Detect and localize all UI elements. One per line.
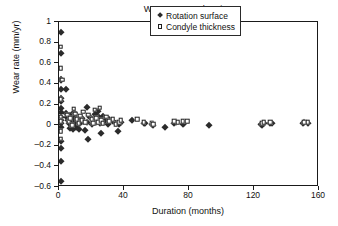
data-point [59,178,64,184]
y-tick-label: 0.4 [0,78,51,87]
data-point [59,66,63,71]
data-point [59,145,64,151]
data-point [141,120,146,125]
data-point [118,118,123,123]
x-tick-label: 160 [311,191,325,200]
legend-item-label: Condyle thickness [165,22,235,32]
data-point [305,120,310,125]
x-tick-mark [123,186,124,190]
y-tick-label: 0.2 [0,99,51,108]
data-point [59,97,63,102]
chart-legend: Rotation surfaceCondyle thickness [150,6,241,36]
y-tick-label: 0 [0,120,51,129]
data-point [268,120,273,125]
data-points-layer [59,22,317,185]
data-point [59,29,64,35]
x-tick-mark [318,186,319,190]
x-tick-mark [253,186,254,190]
data-point [185,119,190,124]
y-tick-label: 0.8 [0,37,51,46]
data-point [261,120,266,125]
data-point [85,135,91,141]
square-icon [155,24,165,28]
data-point [135,117,140,122]
data-point [110,117,115,122]
legend-item-label: Rotation surface [165,11,228,21]
data-point [59,136,63,141]
data-point [60,77,65,82]
y-tick-label: –0.2 [0,140,51,149]
legend-item: Condyle thickness [155,21,235,32]
data-point [71,106,76,111]
x-tick-label: 40 [118,191,127,200]
data-point [70,123,75,128]
data-point [59,129,63,134]
legend-item: Rotation surface [155,10,235,21]
x-tick-mark [58,186,59,190]
data-point [59,44,63,49]
chart-figure: Wear rate vs. duration Wear rate (mm/yr)… [0,0,338,226]
data-point [97,105,102,110]
data-point [98,130,104,136]
x-axis-label: Duration (months) [58,206,318,216]
data-point [59,50,64,56]
plot-area [58,21,318,186]
x-tick-mark [188,186,189,190]
data-point [101,121,106,126]
data-point [114,128,120,134]
data-point [82,127,88,133]
data-point [62,86,68,92]
y-tick-label: 1 [0,17,51,26]
y-tick-label: 0.6 [0,58,51,67]
data-point [151,122,156,127]
data-point [68,116,73,121]
x-tick-label: 120 [246,191,260,200]
data-point [59,119,63,124]
y-tick-label: –0.6 [0,182,51,191]
x-tick-label: 0 [56,191,61,200]
data-point [83,120,88,125]
data-point [161,124,167,130]
data-point [59,158,65,164]
x-tick-label: 80 [183,191,192,200]
data-point [205,122,211,128]
diamond-icon [155,13,165,17]
y-tick-label: –0.4 [0,161,51,170]
